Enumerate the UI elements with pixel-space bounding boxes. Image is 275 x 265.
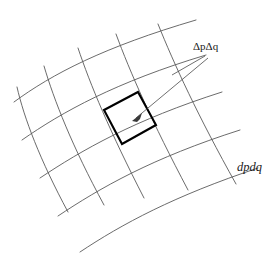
label-dpdq: dpdq	[237, 161, 262, 174]
figure-background	[0, 0, 275, 265]
figure-container: ΔpΔq dpdq	[0, 0, 275, 265]
label-dpdq-text: dpdq	[237, 160, 262, 174]
label-delta-p-delta-q-text: ΔpΔq	[193, 40, 218, 52]
phase-space-grid-diagram	[0, 0, 275, 265]
label-delta-p-delta-q: ΔpΔq	[193, 41, 218, 52]
